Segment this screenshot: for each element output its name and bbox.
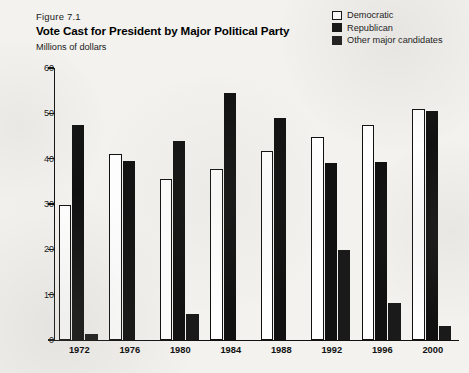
bar-democratic [412,109,424,340]
legend-label-other: Other major candidates [347,35,443,45]
bar-republican [173,141,185,340]
chart-title: Vote Cast for President by Major Politic… [36,24,289,37]
x-tick-label: 1980 [155,345,206,355]
bar-democratic [59,205,71,340]
legend-swatch-republican-icon [332,23,342,32]
bar-group [105,68,156,340]
chart-legend: Democratic Republican Other major candid… [332,9,443,47]
bar-democratic [109,154,121,340]
bar-republican [375,162,387,340]
bar-republican [224,93,236,340]
x-tick-label: 1996 [357,345,408,355]
x-tick-label: 1988 [256,345,307,355]
plot-area [54,68,458,340]
legend-item-democratic: Democratic [332,9,443,22]
bar-group [54,68,105,340]
bar-other-major-candidates [186,314,198,340]
legend-swatch-democratic-icon [332,11,342,20]
bar-republican [72,125,84,340]
x-tick-label: 1972 [54,345,105,355]
bar-group [155,68,206,340]
figure-page: Figure 7.1 Vote Cast for President by Ma… [0,0,469,373]
bar-democratic [311,137,323,340]
legend-item-republican: Republican [332,22,443,35]
x-axis-line [54,340,459,341]
bar-republican [426,111,438,340]
bar-democratic [261,151,273,340]
y-axis: 0102030405060 [0,0,54,373]
x-tick-label: 1976 [105,345,156,355]
x-tick-label: 1984 [206,345,257,355]
bar-democratic [362,125,374,340]
x-tick-label: 2000 [408,345,459,355]
bar-group [256,68,307,340]
bar-group [357,68,408,340]
legend-label-democratic: Democratic [347,10,393,20]
bar-group [307,68,358,340]
bar-republican [325,163,337,340]
x-tick-label: 1992 [307,345,358,355]
bar-other-major-candidates [85,334,97,340]
legend-item-other: Other major candidates [332,34,443,47]
bar-democratic [160,179,172,340]
bar-democratic [210,169,222,340]
legend-swatch-other-icon [332,36,342,45]
bar-republican [274,118,286,340]
bar-group [206,68,257,340]
bar-other-major-candidates [338,250,350,340]
bar-other-major-candidates [439,326,451,340]
bar-republican [123,161,135,340]
bar-other-major-candidates [388,303,400,340]
legend-label-republican: Republican [347,23,393,33]
bar-group [408,68,459,340]
